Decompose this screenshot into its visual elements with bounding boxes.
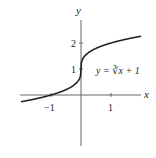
plot-area: x y −1 1 1 2 y = ∛x + 1 — [0, 0, 156, 158]
y-tick-label-2: 2 — [71, 38, 76, 49]
y-axis-label: y — [75, 4, 81, 16]
equation-annotation: y = ∛x + 1 — [95, 64, 140, 76]
x-axis-label: x — [143, 88, 149, 100]
y-tick-label-1: 1 — [71, 64, 76, 75]
chart: x y −1 1 1 2 y = ∛x + 1 — [0, 0, 156, 158]
x-tick-label-neg1: −1 — [44, 102, 55, 113]
x-tick-label-1: 1 — [108, 102, 113, 113]
